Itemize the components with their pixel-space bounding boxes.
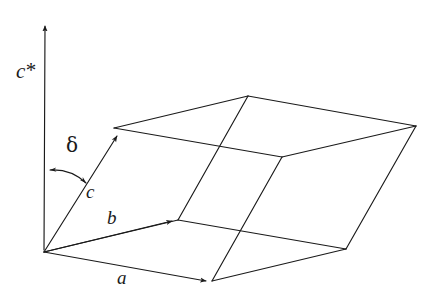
unit-cell-figure: c* δ c b a (0, 0, 438, 301)
axis-c-star (44, 26, 45, 250)
edge-vertical-ab-to-abc (346, 126, 416, 249)
edge-top-ac-to-c (114, 128, 282, 157)
label-b: b (107, 208, 117, 227)
edge-bottom-ab-to-b (178, 220, 346, 249)
edge-vertical-a-to-ac (212, 157, 282, 281)
edge-top-bc-to-abc (248, 96, 416, 126)
vector-c (44, 136, 117, 252)
angle-arc-delta (50, 170, 86, 183)
edge-top-abc-to-ac (282, 126, 416, 157)
edge-bottom-a-to-ab (212, 249, 346, 281)
label-c-star-asterisk: * (26, 58, 37, 82)
edge-vertical-b-to-bc (178, 96, 248, 220)
label-c-star-letter: c (16, 59, 26, 83)
label-delta: δ (66, 135, 78, 155)
edge-top-c-to-bc (114, 96, 248, 128)
label-c: c (86, 182, 94, 201)
label-c-star: c* (16, 60, 37, 82)
label-a: a (117, 268, 127, 287)
